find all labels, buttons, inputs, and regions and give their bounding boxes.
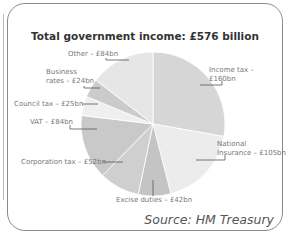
label-council-tax: Council tax – £25bn [14,100,83,109]
label-income-tax: Income tax –£160bn [209,66,254,84]
label-vat: VAT – £84bn [30,118,73,127]
label-business-rates: Businessrates – £24bn [46,68,94,86]
label-national-insurance: NationalInsurance – £105bn [217,140,286,158]
source-note: Source: HM Treasury [144,212,274,227]
pie-slice-income-tax [153,52,225,137]
pie-slices [81,52,225,196]
label-excise-duties: Excise duties – £42bn [116,196,192,205]
label-other: Other – £84bn [68,50,118,59]
label-corporation-tax: Corporation tax – £52bn [21,158,106,167]
